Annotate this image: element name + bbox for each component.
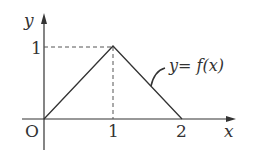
- label-leader-line: [151, 68, 165, 86]
- curve-label: y= f(x): [168, 56, 224, 75]
- x-tick-label-2: 2: [176, 121, 187, 141]
- y-axis-arrow-icon: [41, 13, 47, 24]
- y-tick-label-1: 1: [31, 38, 42, 58]
- x-axis-label: x: [224, 121, 234, 141]
- y-axis-label: y: [23, 10, 34, 30]
- function-graph: y 1 O 1 2 x y= f(x): [0, 0, 253, 157]
- x-tick-label-1: 1: [108, 121, 119, 141]
- origin-label: O: [25, 121, 39, 141]
